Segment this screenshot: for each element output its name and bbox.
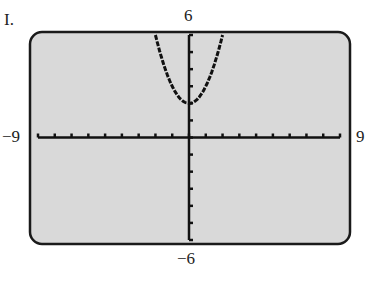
calculator-screen bbox=[0, 0, 361, 282]
